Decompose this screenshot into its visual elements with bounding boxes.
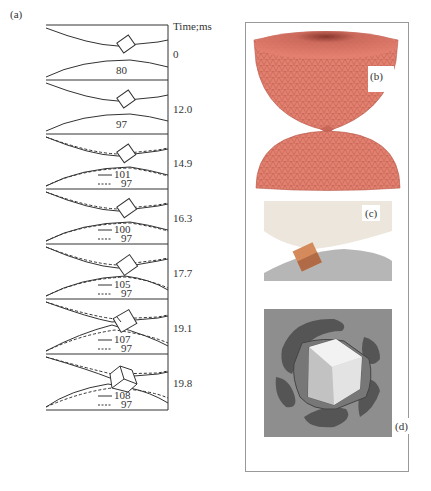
panel-c-label: (c) (362, 205, 380, 221)
frame-4-dashed: 97 (121, 287, 132, 299)
time-label-1: 12.0 (173, 103, 192, 115)
panel-b-spheres (246, 23, 410, 198)
frame-6-dashed: 97 (121, 398, 132, 410)
frame-5-dashed: 97 (121, 342, 132, 354)
panel-b-label: (b) (368, 66, 394, 92)
panel-bcd-frame: (b) (c) (245, 22, 409, 472)
time-label-4: 17.7 (173, 267, 192, 279)
time-label-6: 19.8 (173, 377, 192, 389)
time-label-3: 16.3 (173, 212, 192, 224)
time-label-2: 14.9 (173, 157, 192, 169)
frame-1-value: 97 (116, 118, 127, 130)
frame-0-value: 80 (116, 64, 127, 76)
panel-d-label: (d) (392, 418, 411, 434)
panel-a: (a) Time;ms (0, 0, 240, 491)
panel-d-drawing (264, 309, 392, 437)
time-label-5: 19.1 (173, 322, 192, 334)
frame-3-dashed: 97 (121, 232, 132, 244)
frame-2-dashed: 97 (121, 177, 132, 189)
panel-d-view (264, 309, 392, 437)
time-label-0: 0 (173, 48, 179, 60)
